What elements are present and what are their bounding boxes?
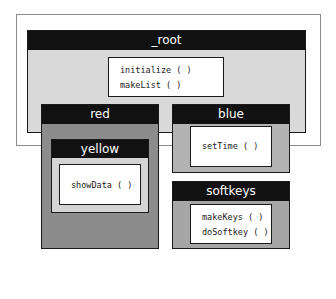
yellow-label: yellow	[81, 142, 119, 156]
method-settime: setTime ( )	[202, 141, 258, 151]
method-makekeys: makeKeys ( )	[202, 212, 263, 222]
yellow-methods-box: showData ( )	[59, 164, 141, 205]
method-dosoftkey: doSoftkey ( )	[202, 227, 269, 237]
method-showdata: showData ( )	[71, 180, 132, 190]
softkeys-label: softkeys	[206, 184, 256, 198]
red-header: red	[42, 105, 158, 124]
root-methods-box: initialize ( ) makeList ( )	[108, 57, 224, 97]
method-initialize: initialize ( )	[120, 65, 192, 75]
method-makelist: makeList ( )	[120, 80, 181, 90]
red-label: red	[90, 107, 110, 121]
blue-label: blue	[218, 107, 244, 121]
softkeys-header: softkeys	[173, 182, 289, 201]
blue-header: blue	[173, 105, 289, 124]
softkeys-methods-box: makeKeys ( ) doSoftkey ( )	[190, 204, 272, 244]
blue-methods-box: setTime ( )	[190, 126, 272, 167]
yellow-header: yellow	[52, 140, 148, 158]
